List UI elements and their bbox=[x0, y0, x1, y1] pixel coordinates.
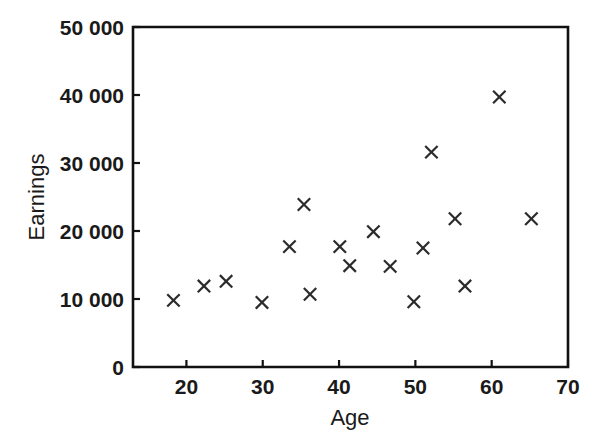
x-tick-label-1: 30 bbox=[251, 375, 274, 398]
y-tick-label-4: 40 000 bbox=[60, 84, 124, 107]
y-tick-label-2: 20 000 bbox=[60, 220, 124, 243]
data-point bbox=[417, 242, 429, 254]
data-point bbox=[304, 288, 316, 300]
data-point bbox=[408, 296, 420, 308]
data-point bbox=[344, 259, 356, 271]
data-point bbox=[198, 280, 210, 292]
y-tick-label-1: 10 000 bbox=[60, 288, 124, 311]
y-tick-label-5: 50 000 bbox=[60, 16, 124, 39]
x-tick-label-0: 20 bbox=[175, 375, 198, 398]
chart-canvas: 010 00020 00030 00040 00050 000 20304050… bbox=[0, 0, 598, 441]
y-tick-label-3: 30 000 bbox=[60, 152, 124, 175]
x-tick-label-2: 40 bbox=[327, 375, 350, 398]
data-point bbox=[367, 225, 379, 237]
data-point bbox=[283, 240, 295, 252]
data-point bbox=[459, 280, 471, 292]
data-markers bbox=[167, 91, 537, 309]
y-axis-tick-labels: 010 00020 00030 00040 00050 000 bbox=[60, 16, 124, 379]
data-point bbox=[449, 213, 461, 225]
data-point bbox=[256, 296, 268, 308]
x-tick-label-5: 70 bbox=[556, 375, 579, 398]
data-point bbox=[493, 91, 505, 103]
x-tick-label-4: 60 bbox=[480, 375, 503, 398]
x-axis-title: Age bbox=[330, 405, 369, 430]
data-point bbox=[334, 240, 346, 252]
x-axis-tick-labels: 203040506070 bbox=[175, 375, 580, 398]
data-point bbox=[220, 275, 232, 287]
x-tick-label-3: 50 bbox=[404, 375, 427, 398]
data-point bbox=[525, 213, 537, 225]
plot-frame bbox=[133, 27, 568, 367]
data-point bbox=[425, 146, 437, 158]
scatter-plot-figure: 010 00020 00030 00040 00050 000 20304050… bbox=[0, 0, 598, 441]
data-point bbox=[298, 198, 310, 210]
data-point bbox=[384, 260, 396, 272]
data-point bbox=[167, 294, 179, 306]
y-axis-title: Earnings bbox=[24, 154, 49, 241]
y-tick-label-0: 0 bbox=[112, 356, 124, 379]
